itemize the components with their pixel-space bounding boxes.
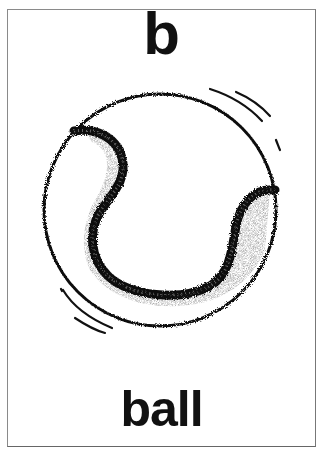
- flashcard-word: ball: [0, 384, 323, 434]
